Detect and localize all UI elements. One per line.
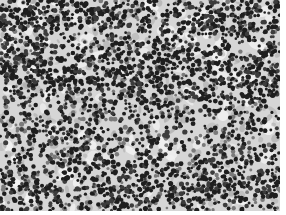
micrograph-image <box>0 0 280 211</box>
cell-field-canvas <box>0 0 280 211</box>
